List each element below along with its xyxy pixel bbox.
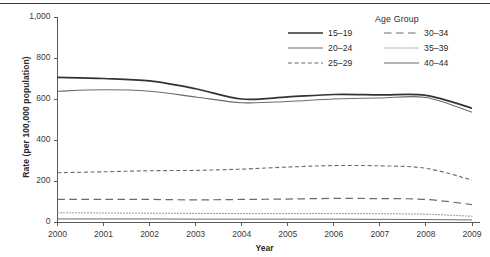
series-lines <box>58 77 473 219</box>
legend-entry-label: 40–44 <box>424 58 448 68</box>
legend-entry-label: 20–24 <box>328 43 352 53</box>
legend-line-swatch <box>384 29 419 37</box>
legend-entry-label: 35–39 <box>424 43 448 53</box>
legend-entry-15-19[interactable]: 15–19 <box>288 28 384 38</box>
series-line-15-19 <box>58 77 473 108</box>
legend-line-swatch <box>288 44 323 52</box>
y-axis-title: Rate (per 100,000 population) <box>21 32 31 202</box>
x-tick-label: 2001 <box>82 230 126 239</box>
legend-entry-label: 25–29 <box>328 58 352 68</box>
legend-entry-40-44[interactable]: 40–44 <box>384 58 484 68</box>
x-tick-label: 2000 <box>36 230 80 239</box>
x-tick-label: 2008 <box>404 230 448 239</box>
legend-entry-label: 30–34 <box>424 28 448 38</box>
series-line-20-24 <box>58 90 473 113</box>
legend-line-swatch <box>288 29 323 37</box>
legend-entry-25-29[interactable]: 25–29 <box>288 58 384 68</box>
x-tick-label: 2009 <box>450 230 490 239</box>
legend-entry-35-39[interactable]: 35–39 <box>384 43 484 53</box>
series-line-25-29 <box>58 165 473 179</box>
legend-entry-20-24[interactable]: 20–24 <box>288 43 384 53</box>
legend-entry-30-34[interactable]: 30–34 <box>384 28 484 38</box>
legend: Age Group 15–1930–3420–2435–3925–2940–44 <box>288 14 484 68</box>
x-axis-title: Year <box>57 243 472 253</box>
series-line-30-34 <box>58 198 473 204</box>
series-line-40-44 <box>58 219 473 220</box>
y-tick-label: 1,000 <box>11 12 51 21</box>
x-tick-label: 2007 <box>358 230 402 239</box>
legend-entries: 15–1930–3420–2435–3925–2940–44 <box>288 28 484 68</box>
x-tick-label: 2004 <box>220 230 264 239</box>
y-tick-label: 0 <box>11 217 51 226</box>
legend-line-swatch <box>288 59 323 67</box>
series-line-35-39 <box>58 213 473 216</box>
x-tick-label: 2006 <box>312 230 356 239</box>
x-tick-label: 2002 <box>128 230 172 239</box>
legend-line-swatch <box>384 59 419 67</box>
figure-chart: 02004006008001,000 200020012002200320042… <box>0 0 490 257</box>
legend-line-swatch <box>384 44 419 52</box>
x-tick-label: 2005 <box>266 230 310 239</box>
legend-title: Age Group <box>310 14 484 24</box>
legend-entry-label: 15–19 <box>328 28 352 38</box>
x-tick-label: 2003 <box>174 230 218 239</box>
